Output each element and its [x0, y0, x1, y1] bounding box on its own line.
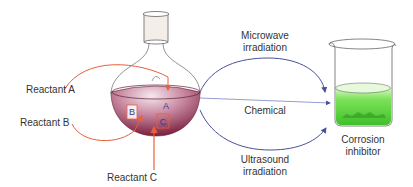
chemical-arrow — [200, 98, 330, 103]
flask-liquid — [111, 86, 200, 136]
product-label: Corrosion inhibitor — [333, 134, 393, 158]
beaker-liquid — [336, 88, 391, 125]
flask-stopper — [143, 12, 169, 45]
synthesis-diagram: Reactant A Reactant B Reactant C B A C M… — [0, 0, 413, 187]
flask-label-a: A — [161, 100, 171, 112]
microwave-label: Microwave irradiation — [232, 30, 298, 54]
flask-label-c: C — [158, 116, 168, 128]
microwave-label-line2: irradiation — [232, 42, 298, 54]
ultrasound-label-line1: Ultrasound — [232, 154, 298, 166]
microwave-arrow — [200, 58, 325, 92]
reactant-b-label: Reactant B — [20, 117, 69, 129]
reactant-a-label: Reactant A — [26, 84, 75, 96]
product-label-line1: Corrosion — [333, 134, 393, 146]
reactant-c-label: Reactant C — [107, 172, 157, 184]
ultrasound-label: Ultrasound irradiation — [232, 154, 298, 178]
chemical-label: Chemical — [235, 105, 295, 117]
product-label-line2: inhibitor — [333, 146, 393, 158]
microwave-label-line1: Microwave — [232, 30, 298, 42]
beaker — [329, 39, 396, 126]
ultrasound-label-line2: irradiation — [232, 166, 298, 178]
flask-label-b: B — [127, 106, 137, 118]
